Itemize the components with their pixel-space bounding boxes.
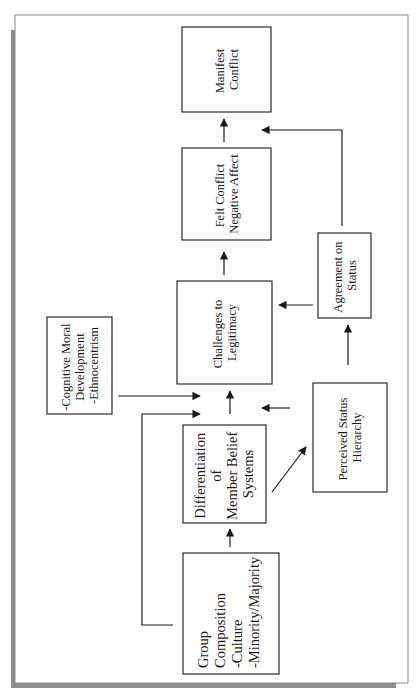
differentiation-line-1: Differentiation — [192, 432, 208, 519]
node-differentiation-member-belief-systems: Differentiation of Member Belief Systems — [183, 425, 266, 523]
perceived-line-2: Hierarchy — [350, 412, 364, 463]
differentiation-line-4: Systems — [240, 449, 256, 498]
felt-conflict-line-1: Felt Conflict — [213, 163, 227, 227]
differentiation-line-2: of — [208, 470, 224, 482]
perceived-line-1: Perceived Status — [336, 397, 350, 480]
agreement-line-2: Status — [345, 260, 359, 291]
group-composition-line-3: -Culture — [229, 620, 245, 668]
group-composition-line-1: Group — [195, 631, 211, 668]
challenges-line-2: Legitimacy — [225, 303, 239, 361]
conflict-model-diagram: Manifest Conflict Felt Conflict Negative… — [0, 0, 416, 696]
svg-text:-Cognitive Moral Develop: -Cognitive Moral Development -Ethnocentr… — [59, 320, 101, 410]
challenges-line-1: Challenges to — [211, 300, 225, 368]
group-composition-line-4: -Minority/Majority — [246, 556, 262, 668]
cognitive-line-1: -Cognitive Moral — [59, 323, 73, 411]
svg-text:Manifest Conflict: Manifest Conflict — [213, 46, 241, 94]
node-cognitive-moral-development: -Cognitive Moral Development -Ethnocentr… — [47, 317, 112, 414]
agreement-line-1: Agreement on — [331, 241, 345, 313]
cognitive-line-3: -Ethnocentrism — [87, 327, 101, 404]
svg-text:Felt Conflict Negative A: Felt Conflict Negative Affect — [213, 154, 241, 234]
frame-shadow-bottom — [11, 683, 396, 688]
manifest-conflict-line-2: Conflict — [227, 48, 241, 89]
differentiation-line-3: Member Belief — [224, 432, 240, 520]
node-challenges-to-legitimacy: Challenges to Legitimacy — [177, 281, 272, 384]
svg-text:Challenges to Legitimacy: Challenges to Legitimacy — [211, 297, 239, 369]
node-manifest-conflict: Manifest Conflict — [182, 27, 271, 112]
node-perceived-status-hierarchy: Perceived Status Hierarchy — [313, 383, 387, 492]
node-agreement-on-status: Agreement on Status — [318, 233, 371, 318]
felt-conflict-line-2: Negative Affect — [227, 154, 241, 234]
cognitive-line-2: Development — [73, 333, 87, 401]
node-group-composition: Group Composition -Culture -Minority/Maj… — [183, 553, 279, 674]
group-composition-line-2: Composition — [212, 592, 228, 668]
node-felt-conflict: Felt Conflict Negative Affect — [182, 148, 271, 240]
manifest-conflict-line-1: Manifest — [213, 48, 227, 93]
